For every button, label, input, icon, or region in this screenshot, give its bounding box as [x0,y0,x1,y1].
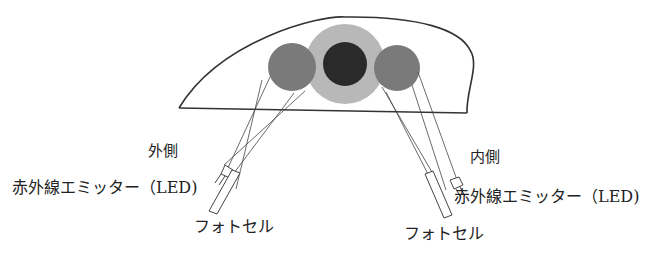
right-side-disc [374,45,420,91]
right-photocell [425,171,452,218]
sensor-diagram [0,0,672,253]
right-emitter-label: 赤外線エミッター（LED) [454,189,639,205]
outer-side-label: 外側 [148,144,178,159]
diagram-canvas: 外側 内側 赤外線エミッター（LED) 赤外線エミッター（LED) フォトセル … [0,0,672,253]
center-disc [323,42,367,86]
right-photocell-label: フォトセル [404,226,484,242]
left-photocell-label: フォトセル [194,219,274,235]
left-emitter-label: 赤外線エミッター（LED) [12,180,197,196]
left-side-disc [268,43,316,91]
inner-side-label: 内側 [470,150,500,165]
